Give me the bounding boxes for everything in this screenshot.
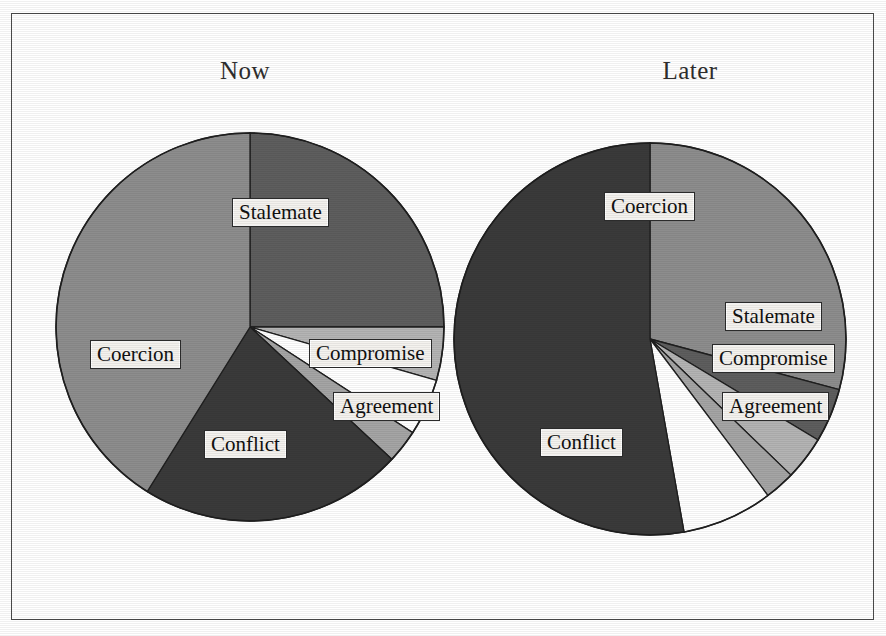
slice-label-coercion: Coercion [604, 192, 695, 221]
slice-label-stalemate: Stalemate [232, 198, 329, 227]
slice-label-compromise: Compromise [309, 339, 432, 368]
slice-label-coercion: Coercion [90, 340, 181, 369]
slice-label-conflict: Conflict [540, 428, 623, 457]
slice-label-stalemate: Stalemate [725, 302, 822, 331]
slice-label-agreement: Agreement [722, 392, 829, 421]
slice-label-compromise: Compromise [712, 344, 835, 373]
slice-label-conflict: Conflict [204, 430, 287, 459]
slice-label-agreement: Agreement [333, 392, 440, 421]
pie-chart-figure: Now Later StalemateCompromiseAgreementCo… [0, 0, 886, 636]
